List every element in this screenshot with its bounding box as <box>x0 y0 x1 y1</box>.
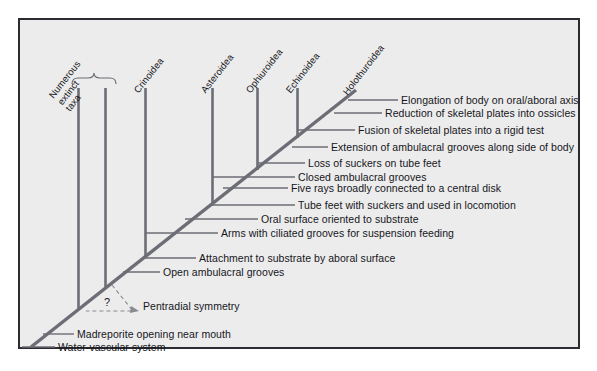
character-label-c11: Attachment to substrate by aboral surfac… <box>199 252 395 264</box>
character-label-c13: Pentradial symmetry <box>143 300 240 312</box>
character-label-c4: Extension of ambulacral grooves along si… <box>331 141 574 153</box>
character-label-c2: Reduction of skeletal plates into ossicl… <box>385 107 576 119</box>
character-label-c15: Water-vascular system <box>58 341 165 353</box>
pentradial-arrowhead <box>130 306 139 313</box>
character-label-c14: Madreporite opening near mouth <box>77 328 231 340</box>
character-label-c12: Open ambulacral grooves <box>163 266 284 278</box>
bottom-cropped-text <box>6 360 66 371</box>
character-label-c1: Elongation of body on oral/aboral axis <box>401 94 579 106</box>
character-label-c5: Loss of suckers on tube feet <box>308 157 441 169</box>
character-label-c10: Arms with ciliated grooves for suspensio… <box>221 227 454 239</box>
character-label-c3: Fusion of skeletal plates into a rigid t… <box>358 124 544 136</box>
character-label-c7: Five rays broadly connected to a central… <box>291 182 501 194</box>
character-label-c9: Oral surface oriented to substrate <box>261 213 419 225</box>
character-label-c8: Tube feet with suckers and used in locom… <box>298 199 516 211</box>
uncertainty-question-mark: ? <box>104 296 110 308</box>
cladogram-figure: Numerous extinct taxa Crinoidea Asteroid… <box>0 0 597 371</box>
